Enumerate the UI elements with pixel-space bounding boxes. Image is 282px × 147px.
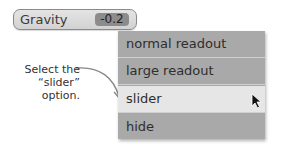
instruction-caption: Select the “slider” option. — [20, 63, 80, 102]
menu-item-large-readout[interactable]: large readout — [118, 58, 265, 85]
menu-item-label: large readout — [126, 63, 214, 78]
gravity-value-readout: -0.2 — [95, 13, 129, 26]
menu-item-slider[interactable]: slider — [118, 86, 265, 113]
gravity-control[interactable]: Gravity -0.2 — [13, 9, 137, 30]
gravity-label: Gravity — [20, 12, 67, 27]
display-mode-menu: normal readout large readout slider hide — [118, 31, 265, 139]
menu-item-label: normal readout — [126, 36, 226, 51]
menu-item-hide[interactable]: hide — [118, 114, 265, 139]
mouse-pointer-icon — [251, 93, 263, 109]
menu-item-label: slider — [126, 91, 162, 106]
caption-line: option. — [20, 89, 80, 102]
caption-line: Select the — [20, 63, 80, 76]
menu-item-label: hide — [126, 119, 154, 134]
menu-item-normal-readout[interactable]: normal readout — [118, 31, 265, 58]
caption-line: “slider” — [20, 76, 80, 89]
